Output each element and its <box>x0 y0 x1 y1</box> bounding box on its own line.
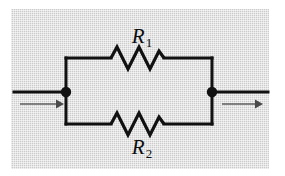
right-junction-dot <box>207 87 217 97</box>
resistor-r2-symbol <box>111 113 164 135</box>
resistor-r1-symbol-text: R <box>132 24 145 48</box>
output-current-arrow <box>222 100 263 109</box>
resistor-r2-symbol-text: R <box>132 135 145 159</box>
input-current-arrow <box>20 100 64 109</box>
resistor-r1-label: R1 <box>132 26 152 49</box>
resistor-r1-subscript: 1 <box>146 36 153 51</box>
resistor-r1-symbol <box>111 47 164 69</box>
circuit-figure: R1 R2 <box>0 0 285 176</box>
left-junction-dot <box>61 87 71 97</box>
resistor-r2-label: R2 <box>132 137 152 160</box>
resistor-r2-subscript: 2 <box>146 147 153 162</box>
